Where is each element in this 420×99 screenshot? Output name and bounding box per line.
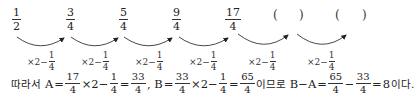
answer: 8 bbox=[383, 77, 390, 91]
term-5: 174 bbox=[225, 7, 241, 32]
term-1: 12 bbox=[12, 7, 21, 32]
a-frac1: 174 bbox=[65, 72, 80, 95]
arrow-1 bbox=[17, 37, 64, 46]
rule-label-3: ×2− 14 bbox=[135, 51, 163, 72]
arrow-5 bbox=[238, 34, 288, 44]
rule-label-2: ×2− 14 bbox=[81, 51, 109, 72]
rule-label-4: ×2− 14 bbox=[189, 51, 217, 72]
blank-A-close: ) bbox=[299, 8, 304, 22]
blank-B-open: ( bbox=[335, 8, 340, 22]
blank-B-close: ) bbox=[362, 8, 367, 22]
b-result: 654 bbox=[240, 72, 255, 95]
rule-label-6: ×2− 14 bbox=[307, 51, 335, 72]
blank-A-open: ( bbox=[273, 8, 278, 22]
rule-label-5: ×2− 14 bbox=[248, 51, 276, 72]
a-result: 334 bbox=[131, 72, 146, 95]
rule-label-1: ×2− 14 bbox=[27, 51, 55, 72]
solution-line: 따라서 A = 174 ×2− 14 = 334 , B = 334 ×2− 1… bbox=[10, 72, 415, 95]
arrow-4 bbox=[179, 37, 228, 46]
arrow-2 bbox=[71, 37, 118, 46]
term-3: 54 bbox=[119, 7, 128, 32]
term-4: 94 bbox=[172, 7, 181, 32]
arrow-6 bbox=[297, 34, 346, 44]
arrow-3 bbox=[124, 37, 172, 46]
term-2: 34 bbox=[66, 7, 75, 32]
